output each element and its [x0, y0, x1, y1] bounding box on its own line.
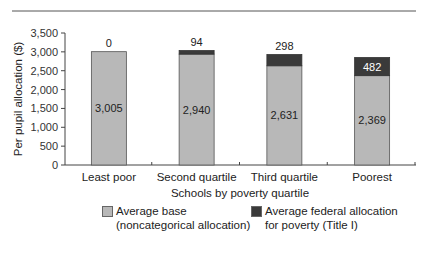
- bar-title1: [267, 55, 302, 66]
- y-tick-label: 3,000: [30, 46, 58, 58]
- legend-title1-line1: Average federal allocation: [265, 205, 398, 217]
- legend-label-title1: Average federal allocation for poverty (…: [265, 204, 398, 232]
- bar-base-label: 3,005: [95, 102, 123, 114]
- x-tick-label: Third quartile: [251, 171, 318, 183]
- bar-base-label: 2,369: [358, 114, 386, 126]
- y-tick-label: 3,500: [30, 27, 58, 39]
- bar-base-label: 2,631: [271, 109, 299, 121]
- y-tick-label: 2,000: [30, 84, 58, 96]
- x-axis-title: Schools by poverty quartile: [171, 187, 309, 199]
- legend-base-line1: Average base: [116, 205, 187, 217]
- y-tick-label: 2,500: [30, 65, 58, 77]
- x-tick-label: Second quartile: [157, 171, 237, 183]
- legend-label-base: Average base (noncategorical allocation): [116, 204, 250, 232]
- bar-base-label: 2,940: [183, 104, 211, 116]
- legend-swatch-base: [102, 206, 113, 217]
- bar-title1-label: 94: [191, 36, 203, 48]
- x-tick-label: Poorest: [352, 171, 392, 183]
- y-tick-label: 0: [52, 159, 58, 171]
- legend-base: Average base (noncategorical allocation): [102, 204, 262, 236]
- bar-title1: [179, 51, 214, 55]
- y-tick-label: 1,500: [30, 102, 58, 114]
- legend-title1-line2: for poverty (Title I): [265, 219, 358, 231]
- y-tick-label: 1,000: [30, 121, 58, 133]
- y-axis: 05001,0001,5002,0002,5003,0003,500: [30, 27, 65, 171]
- bars: 3,00502,940942,6312982,369482: [91, 36, 389, 165]
- legend-title1: Average federal allocation for poverty (…: [251, 204, 421, 236]
- y-axis-title: Per pupil allocation ($): [12, 42, 24, 157]
- legend-base-line2: (noncategorical allocation): [116, 219, 250, 231]
- x-tick-label: Least poor: [82, 171, 137, 183]
- y-tick-label: 500: [40, 140, 58, 152]
- bar-title1-label: 298: [275, 40, 293, 52]
- bar-title1-label: 482: [363, 61, 381, 73]
- legend-swatch-title1: [251, 206, 262, 217]
- bar-title1-label: 0: [106, 37, 112, 49]
